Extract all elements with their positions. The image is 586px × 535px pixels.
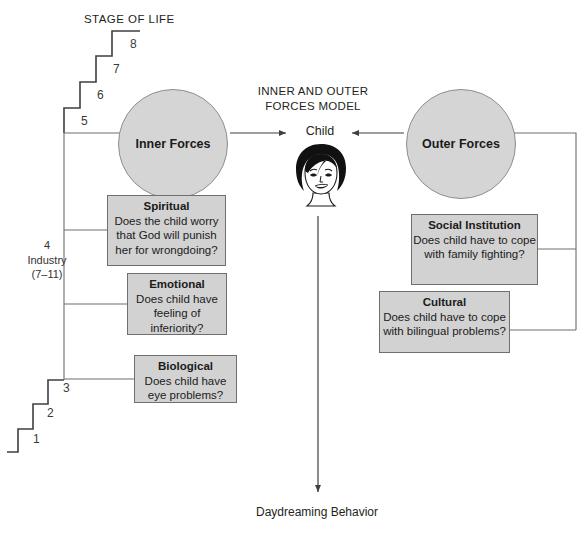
stage-number-5: 5 <box>81 114 88 128</box>
stage-number-2: 2 <box>47 406 54 420</box>
outer-forces-node[interactable]: Outer Forces <box>406 89 516 199</box>
stage-number-1: 1 <box>33 432 40 446</box>
box-title: Cultural <box>380 295 509 310</box>
stage-of-life-heading: STAGE OF LIFE <box>84 13 175 25</box>
box-body: Does child have feeling of inferiority? <box>128 292 226 336</box>
child-label: Child <box>290 124 350 138</box>
inner-forces-node[interactable]: Inner Forces <box>118 89 228 199</box>
inner-forces-label: Inner Forces <box>135 137 210 151</box>
stage-number-8: 8 <box>130 37 137 51</box>
box-title: Biological <box>135 359 236 374</box>
stage-number-7: 7 <box>113 62 120 76</box>
box-body: Does child have to cope with bilingual p… <box>380 310 509 339</box>
inner-box-emotional[interactable]: Emotional Does child have feeling of inf… <box>127 273 227 335</box>
diagram-canvas: STAGE OF LIFE INNER AND OUTERFORCES MODE… <box>0 0 586 535</box>
outer-box-cultural[interactable]: Cultural Does child have to cope with bi… <box>379 291 510 353</box>
box-body: Does child have eye problems? <box>135 374 236 403</box>
box-body: Does child have to cope with family figh… <box>412 233 537 262</box>
box-title: Spiritual <box>108 199 225 214</box>
industry-stage-label: 4Industry(7–11) <box>14 238 80 282</box>
model-title: INNER AND OUTERFORCES MODEL <box>254 84 372 114</box>
stage-number-3: 3 <box>63 381 70 395</box>
box-title: Emotional <box>128 277 226 292</box>
inner-box-spiritual[interactable]: Spiritual Does the child worry that God … <box>107 195 226 266</box>
box-body: Does the child worry that God will punis… <box>108 214 225 258</box>
inner-box-biological[interactable]: Biological Does child have eye problems? <box>134 355 237 403</box>
child-face-icon <box>288 141 354 213</box>
outcome-label: Daydreaming Behavior <box>226 505 408 519</box>
stage-number-6: 6 <box>97 88 104 102</box>
outer-forces-label: Outer Forces <box>422 137 500 151</box>
box-title: Social Institution <box>412 218 537 233</box>
outer-box-social-institution[interactable]: Social Institution Does child have to co… <box>411 214 538 285</box>
